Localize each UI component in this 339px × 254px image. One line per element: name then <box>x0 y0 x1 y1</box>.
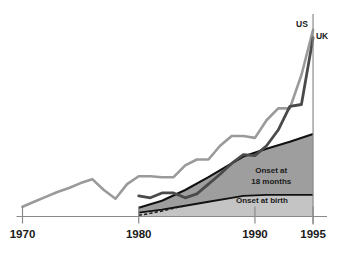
series-label-us: US <box>296 19 308 29</box>
area-annotation-birth: Onset at birth <box>236 196 288 205</box>
line-chart: 1970 1980 1990 1995 US UK Onset at 18 mo… <box>0 0 339 254</box>
area-annotation-18-months-line1: Onset at <box>255 166 287 175</box>
x-tick-label-1995: 1995 <box>300 228 326 240</box>
x-tick-label-1970: 1970 <box>10 228 36 240</box>
series-label-uk: UK <box>316 31 329 41</box>
area-annotation-18-months-line2: 18 months <box>251 177 292 186</box>
chart-container: 1970 1980 1990 1995 US UK Onset at 18 mo… <box>0 0 339 254</box>
x-tick-label-1990: 1990 <box>242 228 268 240</box>
x-tick-label-1980: 1980 <box>126 228 152 240</box>
